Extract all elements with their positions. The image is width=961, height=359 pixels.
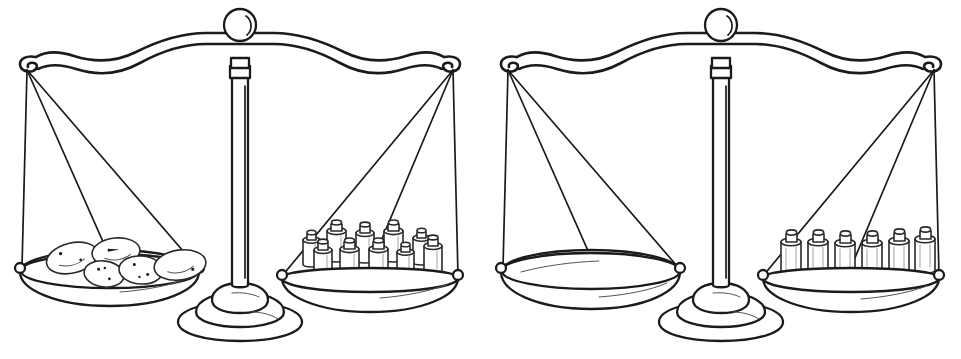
scale-base — [659, 283, 783, 341]
empty-pan — [496, 250, 685, 309]
finial-knob — [705, 9, 737, 41]
left-pan-strings — [22, 70, 196, 267]
scale-column — [711, 58, 731, 287]
scale-base — [178, 283, 302, 341]
illustration-canvas — [0, 0, 961, 359]
scale-column — [230, 58, 250, 287]
finial-knob — [224, 9, 256, 41]
right-pan — [277, 268, 463, 312]
weight — [915, 227, 935, 273]
right-balance-scale — [481, 0, 961, 359]
right-pan — [758, 268, 944, 312]
left-balance-scale — [0, 0, 480, 359]
left-pan-strings — [503, 70, 677, 267]
